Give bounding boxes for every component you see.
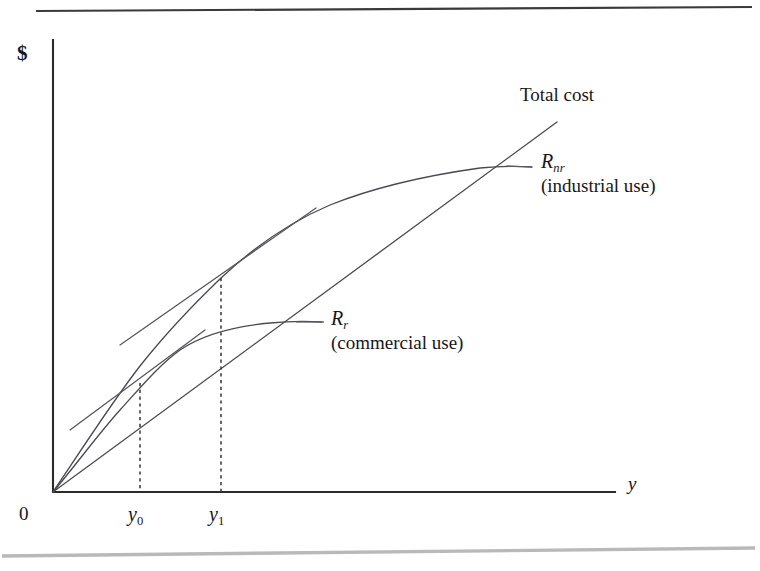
tick-label-y0: y0 (128, 503, 143, 528)
tick-label-y1: y1 (209, 503, 224, 528)
tick-y0-base: y (128, 503, 137, 525)
rr-description: (commercial use) (331, 332, 463, 353)
tangent-line-y1 (120, 208, 316, 345)
economics-figure-svg (0, 0, 760, 571)
rnr-symbol-base: R (541, 150, 553, 172)
tangent-line-y0 (70, 330, 205, 430)
rnr-label-group: Rnr (industrial use) (541, 150, 656, 196)
figure-container: $ 0 y y0 y1 Total cost Rnr (industrial u… (0, 0, 760, 571)
x-axis-label: y (628, 473, 636, 494)
origin-label: 0 (19, 503, 29, 524)
top-horizontal-rule (36, 7, 752, 11)
tick-y1-base: y (209, 503, 218, 525)
rr-symbol: Rr (331, 307, 463, 332)
y-axis-label: $ (17, 42, 28, 66)
rnr-description: (industrial use) (541, 175, 656, 196)
bottom-horizontal-rule (2, 548, 755, 556)
total-cost-label: Total cost (520, 84, 594, 105)
rnr-symbol: Rnr (541, 150, 656, 175)
rr-label-group: Rr (commercial use) (331, 307, 463, 353)
rr-symbol-subscript: r (343, 318, 348, 332)
rr-symbol-base: R (331, 307, 343, 329)
rr-curve (53, 321, 322, 492)
rnr-symbol-subscript: nr (553, 161, 565, 175)
total-cost-line (53, 122, 557, 492)
tick-y0-subscript: 0 (137, 514, 143, 528)
tick-y1-subscript: 1 (218, 514, 224, 528)
